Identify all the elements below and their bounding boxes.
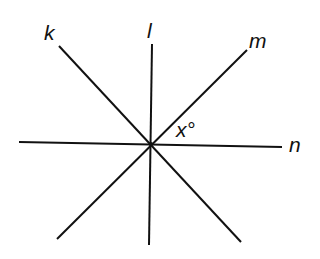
intersection-point [149,142,153,146]
label-k: k [44,22,55,43]
angle-label-x: x° [176,119,195,140]
label-m: m [249,30,267,51]
label-n: n [289,134,301,155]
label-l: l [147,20,152,41]
diagram-canvas: k l m n x° [0,0,320,259]
